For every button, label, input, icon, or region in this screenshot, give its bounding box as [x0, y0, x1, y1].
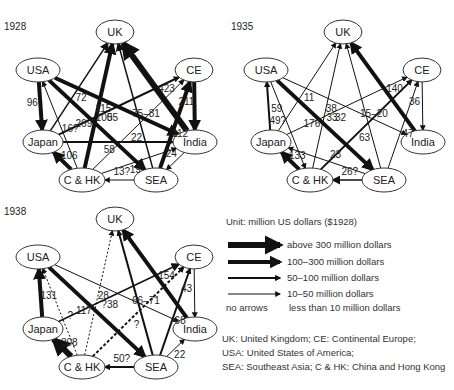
svg-text:USA: USA: [27, 64, 50, 76]
svg-text:India: India: [411, 136, 436, 148]
flow-sea-to-ce: [388, 82, 418, 168]
flow-value-label: ?: [67, 310, 73, 321]
svg-text:SEA: SEA: [373, 174, 396, 186]
panel-1935: 1935UKCEUSAJapanIndiaC & HKSEA59113315–2…: [231, 20, 445, 192]
flow-value-label: 49?: [269, 115, 286, 126]
node-sea: SEA: [362, 168, 406, 192]
trade-flow-diagram: 1928UKCEUSAJapanIndiaC & HKSEA967210075–…: [0, 0, 454, 390]
node-sea: SEA: [134, 355, 178, 379]
panel-year-label: 1928: [4, 21, 27, 32]
flow-value-label: 211: [178, 96, 194, 107]
svg-text:USA: USA: [27, 251, 50, 263]
node-uk: UK: [96, 207, 134, 231]
legend-label-50-100: 50–100 million dollars: [287, 272, 379, 283]
flow-value-label: 154: [158, 270, 175, 281]
flow-value-label: 23: [330, 149, 342, 160]
node-ce: CE: [403, 58, 441, 82]
flow-value-label: 308: [61, 337, 78, 348]
svg-text:USA: USA: [255, 64, 278, 76]
node-uk: UK: [324, 20, 362, 44]
panel-1938: 1938UKCEUSAJapanIndiaC & HKSEA131?66–711…: [4, 206, 217, 379]
flow-value-label: 68: [175, 315, 187, 326]
legend-no-arrows-key: no arrows: [226, 302, 268, 313]
flow-value-label: 106: [61, 150, 78, 161]
svg-text:UK: UK: [107, 213, 123, 225]
flow-value-label: 59: [271, 103, 283, 114]
flow-value-label: 117: [76, 305, 92, 316]
panel-year-label: 1935: [231, 21, 254, 32]
flow-value-label: 63: [359, 132, 371, 143]
node-c-hk: C & HK: [59, 168, 105, 192]
svg-text:Japan: Japan: [28, 136, 58, 148]
panel-1928: 1928UKCEUSAJapanIndiaC & HKSEA967210075–…: [4, 20, 217, 192]
svg-text:CE: CE: [186, 64, 201, 76]
node-ce: CE: [175, 58, 213, 82]
svg-text:SEA: SEA: [145, 174, 168, 186]
flow-value-label: 423: [158, 83, 175, 94]
legend-label-300: above 300 million dollars: [287, 239, 392, 250]
flow-value-label: 15–20: [360, 108, 388, 119]
legend-arrows: [228, 245, 280, 294]
node-c-hk: C & HK: [59, 355, 105, 379]
flow-value-label: 72: [76, 92, 88, 103]
flow-value-label: 96: [27, 97, 39, 108]
svg-text:SEA: SEA: [145, 361, 168, 373]
node-usa: USA: [16, 58, 60, 82]
node-japan: Japan: [251, 130, 291, 154]
svg-text:UK: UK: [107, 26, 123, 38]
node-japan: Japan: [23, 130, 63, 154]
svg-text:UK: UK: [335, 26, 351, 38]
legend-label-10-50: 10–50 million dollars: [287, 288, 374, 299]
svg-text:CE: CE: [414, 64, 429, 76]
svg-text:India: India: [183, 323, 208, 335]
flow-value-label: 176: [304, 118, 321, 129]
svg-text:C & HK: C & HK: [64, 174, 101, 186]
flow-value-label: 133: [289, 150, 306, 161]
node-ce: CE: [175, 245, 213, 269]
flow-value-label: 75–81: [132, 108, 160, 119]
flow-value-label: 32: [335, 112, 347, 123]
node-usa: USA: [16, 245, 60, 269]
abbrev-line-3: SEA: Southeast Asia; C & HK: China and H…: [222, 361, 445, 372]
abbrev-line-2: USA: United States of America;: [222, 347, 354, 358]
flow-value-label: 269: [76, 118, 93, 129]
legend-label-100-300: 100–300 million dollars: [287, 256, 384, 267]
node-uk: UK: [96, 20, 134, 44]
flow-value-label: 24: [166, 148, 178, 159]
node-usa: USA: [244, 58, 288, 82]
flow-value-label: 112: [172, 128, 188, 139]
flow-value-label: 11: [304, 92, 315, 103]
svg-text:C & HK: C & HK: [64, 361, 101, 373]
flow-value-label: 55: [107, 112, 119, 123]
flow-value-label: 47: [403, 128, 415, 139]
flow-value-label: 13?: [113, 166, 130, 177]
flow-value-label: 58: [104, 144, 116, 155]
legend-unit: Unit: million US dollars ($1928): [226, 216, 357, 227]
node-japan: Japan: [23, 317, 63, 341]
svg-text:C & HK: C & HK: [292, 174, 329, 186]
abbrev-line-1: UK: United Kingdom; CE: Continental Euro…: [222, 333, 416, 344]
flow-value-label: 50?: [113, 353, 130, 364]
flow-value-label: 22: [174, 349, 186, 360]
svg-text:Japan: Japan: [256, 136, 286, 148]
flow-value-label: ?: [134, 319, 140, 330]
flow-ce-to-india: [194, 269, 195, 317]
flow-ce-to-india: [422, 82, 423, 130]
flow-value-label: 131: [40, 290, 57, 301]
flow-value-label: 43: [181, 283, 193, 294]
flow-value-label: 19: [130, 164, 142, 175]
flow-usa-to-japan: [39, 82, 42, 130]
svg-text:CE: CE: [186, 251, 201, 263]
legend-no-arrows-label: less than 10 million dollars: [289, 302, 400, 313]
flow-value-label: 140: [386, 83, 403, 94]
panel-year-label: 1938: [4, 206, 27, 217]
svg-text:Japan: Japan: [28, 323, 58, 335]
node-c-hk: C & HK: [287, 168, 333, 192]
flow-sea-to-ce: [160, 269, 190, 355]
flow-value-label: 66–71: [132, 295, 160, 306]
flow-value-label: 38: [107, 299, 119, 310]
flow-value-label: 36: [409, 96, 421, 107]
flow-value-label: 22: [131, 132, 143, 143]
flow-value-label: 26?: [341, 166, 358, 177]
